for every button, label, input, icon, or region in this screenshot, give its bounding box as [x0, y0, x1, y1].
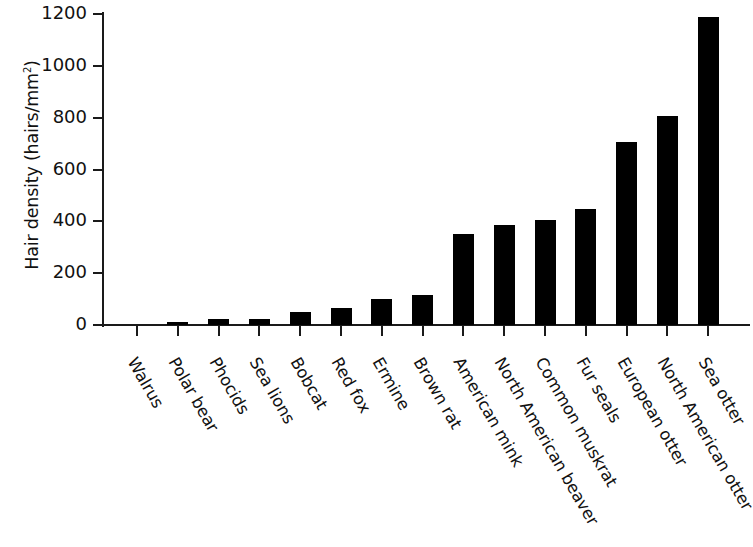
bar — [290, 312, 311, 325]
y-axis-title-superscript: 2 — [22, 67, 33, 73]
bar — [208, 319, 229, 325]
bar — [331, 308, 352, 325]
y-axis-tick-label: 0 — [76, 313, 87, 334]
x-axis-tick — [299, 325, 301, 336]
x-axis-category-label: Ermine — [368, 354, 413, 413]
y-axis-tick: 1200 — [93, 13, 102, 15]
y-axis-tick-label: 600 — [53, 158, 87, 179]
x-axis-tick — [136, 325, 138, 336]
bar — [453, 234, 474, 325]
bar — [657, 116, 678, 325]
x-axis-tick — [462, 325, 464, 336]
y-axis-tick: 0 — [93, 324, 102, 326]
bar — [249, 319, 270, 325]
y-axis-title-tail: ) — [22, 60, 42, 67]
bar — [412, 295, 433, 325]
x-axis-tick — [177, 325, 179, 336]
plot-area: 120010008006004002000WalrusPolar bearPho… — [102, 14, 742, 325]
bar — [167, 322, 188, 325]
x-axis-tick — [666, 325, 668, 336]
y-axis-title-text: Hair density (hairs/mm — [22, 73, 42, 270]
x-axis-tick — [381, 325, 383, 336]
y-axis-tick-label: 800 — [53, 106, 87, 127]
y-axis-tick-label: 400 — [53, 209, 87, 230]
y-axis-tick-label: 1200 — [41, 2, 87, 23]
y-axis-tick: 600 — [93, 169, 102, 171]
x-axis-tick — [707, 325, 709, 336]
x-axis-tick — [626, 325, 628, 336]
bar — [575, 209, 596, 325]
y-axis-tick-label: 1000 — [41, 54, 87, 75]
y-axis-tick: 200 — [93, 272, 102, 274]
y-axis-title: Hair density (hairs/mm2) — [22, 5, 42, 325]
x-axis-tick — [544, 325, 546, 336]
x-axis-category-label: Walrus — [124, 354, 168, 411]
bar — [494, 225, 515, 325]
bar — [535, 220, 556, 325]
y-axis-tick: 400 — [93, 220, 102, 222]
hair-density-bar-chart: Hair density (hairs/mm2) 120010008006004… — [0, 0, 753, 547]
bar — [698, 17, 719, 325]
x-axis-tick — [340, 325, 342, 336]
x-axis-tick — [422, 325, 424, 336]
bar — [616, 142, 637, 325]
x-axis-tick — [503, 325, 505, 336]
x-axis-tick — [258, 325, 260, 336]
y-axis-tick: 800 — [93, 117, 102, 119]
bar — [371, 299, 392, 325]
x-axis-category-label: Bobcat — [287, 354, 332, 413]
y-axis-tick-label: 200 — [53, 261, 87, 282]
y-axis-tick: 1000 — [93, 65, 102, 67]
x-axis-tick — [585, 325, 587, 336]
x-axis-tick — [218, 325, 220, 336]
